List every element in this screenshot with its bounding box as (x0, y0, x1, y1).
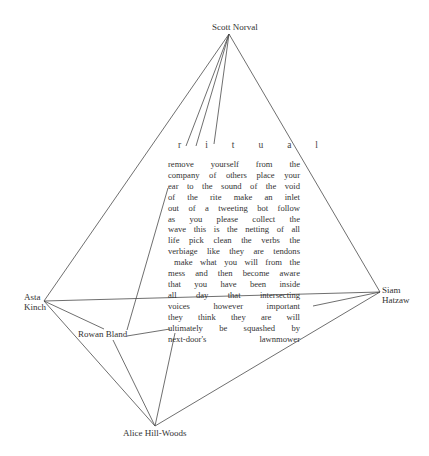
poem-line: life pick clean the verbs the (168, 235, 300, 246)
title-letter: t (232, 140, 235, 150)
title-letter: r (178, 140, 181, 150)
edge-rowan-ear (127, 188, 168, 330)
edge-asta-rowan (44, 301, 104, 329)
node-rowan-bland: Rowan Bland (78, 329, 127, 339)
poem-line: they think they are will (168, 312, 300, 323)
poem-line: as you please collect the (168, 214, 300, 225)
poem-line: next-door's lawnmower (168, 334, 300, 345)
poem-line: out of a tweeting bot follow (168, 203, 300, 214)
edge-nextdoor-alice (155, 333, 175, 426)
poem-title: r i t u a l (178, 140, 318, 150)
node-asta-first: Asta (24, 292, 46, 302)
poem-line: of the rite make an inlet (168, 192, 300, 203)
edge-rowan-nextdoor (127, 329, 170, 336)
poem-line: make what you will from the (168, 257, 300, 268)
poem-line: wave this is the netting of all (168, 224, 300, 235)
poem-line: mess and then become aware (168, 268, 300, 279)
edge-scott-r (186, 34, 229, 146)
edge-scott-t (214, 34, 229, 144)
node-asta-last: Kinch (24, 302, 46, 312)
node-siam-hatzaw: Siam Hatzaw (382, 285, 409, 305)
poem-line: ear to the sound of the void (168, 181, 300, 192)
poem-line: company of others place your (168, 170, 300, 181)
poem-line: remove yourself from the (168, 159, 300, 170)
node-alice-hill-woods: Alice Hill-Woods (123, 428, 187, 438)
edge-scott-i (196, 34, 229, 146)
poem-body: remove yourself from the company of othe… (168, 159, 300, 344)
node-siam-last: Hatzaw (382, 295, 409, 305)
title-letter: u (258, 140, 263, 150)
edge-asta-alice (44, 301, 155, 426)
title-letter: l (315, 140, 318, 150)
title-letter: a (287, 140, 291, 150)
edge-rowan-alice (113, 340, 155, 426)
node-asta-kinch: Asta Kinch (24, 292, 46, 312)
poem-line: ultimately be squashed by (168, 323, 300, 334)
poem-line: verbiage like they are tendons (168, 246, 300, 257)
node-scott-norval: Scott Norval (212, 22, 258, 32)
edge-siam-will (313, 292, 380, 306)
poem-line: voices however important (168, 301, 300, 312)
poem-line: that you have been inside (168, 279, 300, 290)
poem-line: all day that intersecting (168, 290, 300, 301)
node-siam-first: Siam (382, 285, 409, 295)
title-letter: i (205, 140, 208, 150)
